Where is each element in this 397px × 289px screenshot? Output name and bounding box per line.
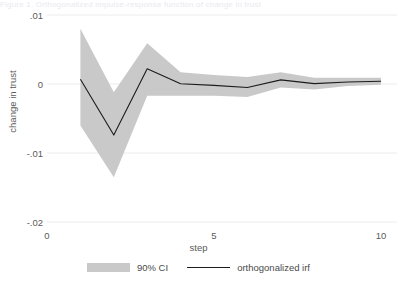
y-tick-label-3: -.02 (10, 217, 43, 228)
confidence-interval-band (80, 29, 381, 177)
y-tick-label-2: -.01 (10, 148, 43, 159)
y-axis-label: change in trust (7, 57, 18, 147)
x-axis-label: step (0, 242, 397, 253)
legend-label-ci: 90% CI (137, 262, 168, 273)
ci-band-swatch-icon (87, 263, 130, 272)
irf-chart-figure: Figure 1. Orthogonalized impulse-respons… (0, 0, 397, 289)
legend-label-irf: orthogonalized irf (237, 262, 310, 273)
legend-entry-irf: orthogonalized irf (187, 262, 310, 273)
x-tick-label-0: 0 (33, 230, 61, 241)
irf-line-swatch-icon (187, 267, 230, 268)
x-tick-label-2: 10 (367, 230, 395, 241)
legend-entry-ci: 90% CI (87, 262, 168, 273)
chart-legend: 90% CI orthogonalized irf (0, 262, 397, 273)
y-tick-label-0: .01 (10, 10, 43, 21)
x-tick-label-1: 5 (200, 230, 228, 241)
